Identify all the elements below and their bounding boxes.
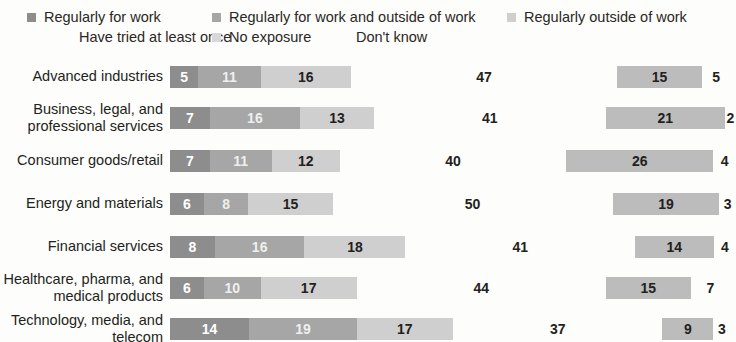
- bar-segment: 21: [606, 107, 725, 129]
- bar-segment: 11: [198, 66, 260, 88]
- category-label-line: professional services: [0, 118, 163, 135]
- legend-label-dont-know: Don't know: [356, 30, 427, 45]
- legend-swatch-have-tried-at-least-once: [62, 33, 71, 42]
- bar-segment-value: 17: [397, 322, 413, 336]
- stacked-bar-chart: Advanced industries5111647155Business, l…: [0, 56, 736, 342]
- bar-segment: 5: [702, 66, 730, 88]
- category-label: Consumer goods/retail: [0, 152, 163, 169]
- category-label: Advanced industries: [0, 68, 163, 85]
- bar-segment: 14: [170, 318, 249, 340]
- bar-segment: 13: [300, 107, 374, 129]
- bar-segment-value: 21: [657, 111, 673, 125]
- bar-segment: 44: [357, 277, 606, 299]
- bar-segment-value: 6: [183, 197, 191, 211]
- stacked-bar: 7111240264: [170, 150, 736, 172]
- bar-segment: 15: [606, 277, 691, 299]
- bar-segment: 26: [566, 150, 713, 172]
- legend-label-regularly-for-work-and-outside-of-work: Regularly for work and outside of work: [229, 10, 476, 25]
- bar-segment: 19: [249, 318, 357, 340]
- chart-row: Technology, media, andtelecom1419173793: [0, 310, 736, 342]
- bar-segment-value: 50: [465, 197, 481, 211]
- category-label-line: Technology, media, and: [0, 312, 163, 329]
- stacked-bar: 6101744157: [170, 277, 736, 299]
- bar-segment-value: 8: [189, 240, 197, 254]
- bar-segment-value: 9: [684, 322, 692, 336]
- bar-segment-value: 13: [329, 111, 345, 125]
- legend-swatch-dont-know: [339, 33, 348, 42]
- legend-item-no-exposure: No exposure: [212, 30, 311, 45]
- bar-segment: 16: [215, 236, 305, 258]
- bar-segment-value: 6: [183, 281, 191, 295]
- bar-segment: 17: [261, 277, 357, 299]
- bar-segment-value: 37: [550, 322, 566, 336]
- legend-label-regularly-outside-of-work: Regularly outside of work: [524, 10, 687, 25]
- bar-segment: 2: [725, 107, 736, 129]
- bar-segment-value: 19: [658, 197, 674, 211]
- stacked-bar: 1419173793: [170, 318, 736, 340]
- legend-item-have-tried-at-least-once: Have tried at least once: [62, 30, 231, 45]
- bar-segment-value: 41: [482, 111, 498, 125]
- bar-segment: 5: [170, 66, 198, 88]
- legend-item-regularly-for-work: Regularly for work: [27, 10, 161, 25]
- legend-item-dont-know: Don't know: [339, 30, 427, 45]
- bar-segment-value: 10: [224, 281, 240, 295]
- legend-swatch-regularly-for-work-and-outside-of-work: [212, 13, 221, 22]
- bar-segment: 4: [714, 236, 736, 258]
- legend-item-regularly-outside-of-work: Regularly outside of work: [507, 10, 687, 25]
- bar-segment-value: 11: [233, 154, 248, 168]
- chart-row: Energy and materials681550193: [0, 185, 736, 223]
- bar-segment: 19: [613, 193, 719, 215]
- bar-segment-value: 3: [718, 322, 726, 336]
- bar-segment-value: 15: [640, 281, 656, 295]
- bar-segment-value: 4: [721, 240, 729, 254]
- category-label: Healthcare, pharma, andmedical products: [0, 271, 163, 305]
- bar-segment-value: 18: [347, 240, 363, 254]
- bar-segment-value: 16: [247, 111, 263, 125]
- bar-segment: 47: [351, 66, 617, 88]
- bar-segment: 12: [272, 150, 340, 172]
- category-label-line: Business, legal, and: [0, 101, 163, 118]
- stacked-bar: 681550193: [170, 193, 736, 215]
- bar-segment: 16: [210, 107, 301, 129]
- legend-label-have-tried-at-least-once: Have tried at least once: [79, 30, 231, 45]
- bar-segment-value: 16: [252, 240, 268, 254]
- chart-row: Consumer goods/retail7111240264: [0, 142, 736, 180]
- chart-row: Financial services8161841144: [0, 228, 736, 266]
- category-label-line: telecom: [0, 329, 163, 342]
- legend-swatch-regularly-outside-of-work: [507, 13, 516, 22]
- category-label-line: Healthcare, pharma, and: [0, 271, 163, 288]
- bar-segment: 14: [635, 236, 713, 258]
- bar-segment: 8: [170, 236, 215, 258]
- bar-segment: 7: [170, 150, 210, 172]
- chart-row: Healthcare, pharma, andmedical products6…: [0, 269, 736, 307]
- bar-segment: 17: [357, 318, 453, 340]
- bar-segment: 50: [333, 193, 613, 215]
- bar-segment: 6: [170, 277, 204, 299]
- chart-row: Advanced industries5111647155: [0, 58, 736, 96]
- legend-swatch-regularly-for-work: [27, 13, 36, 22]
- bar-segment-value: 44: [473, 281, 489, 295]
- stacked-bar: 7161341212: [170, 107, 736, 129]
- bar-segment: 3: [713, 318, 730, 340]
- bar-segment: 41: [405, 236, 635, 258]
- category-label-line: Financial services: [0, 238, 163, 255]
- bar-segment-value: 14: [202, 322, 218, 336]
- bar-segment: 8: [204, 193, 249, 215]
- bar-segment-value: 47: [476, 70, 492, 84]
- bar-segment-value: 15: [283, 197, 299, 211]
- bar-segment-value: 17: [301, 281, 317, 295]
- bar-segment: 41: [374, 107, 606, 129]
- chart-legend: Regularly for work Have tried at least o…: [0, 0, 736, 54]
- bar-segment-value: 41: [512, 240, 528, 254]
- category-label-line: medical products: [0, 288, 163, 305]
- bar-segment: 40: [340, 150, 566, 172]
- legend-item-regularly-for-work-and-outside-of-work: Regularly for work and outside of work: [212, 10, 476, 25]
- bar-segment-value: 5: [712, 70, 720, 84]
- bar-segment: 15: [617, 66, 702, 88]
- bar-segment-value: 8: [222, 197, 230, 211]
- category-label: Business, legal, andprofessional service…: [0, 101, 163, 135]
- legend-swatch-no-exposure: [212, 33, 221, 42]
- category-label-line: Advanced industries: [0, 68, 163, 85]
- category-label: Financial services: [0, 238, 163, 255]
- bar-segment: 6: [170, 193, 204, 215]
